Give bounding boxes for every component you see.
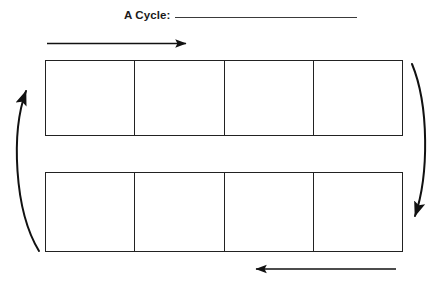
- top-row-cell-4[interactable]: [314, 61, 402, 135]
- top-row-cell-2[interactable]: [135, 61, 224, 135]
- bottom-row-cell-3[interactable]: [225, 173, 314, 251]
- bottom-row-cell-1[interactable]: [46, 173, 135, 251]
- cycle-worksheet: A Cycle:: [0, 0, 438, 285]
- top-row-cell-3[interactable]: [225, 61, 314, 135]
- worksheet-title: A Cycle:: [124, 9, 357, 21]
- left-arrow-up-icon: [17, 91, 39, 251]
- title-blank-line[interactable]: [175, 17, 357, 18]
- bottom-row: [45, 172, 403, 252]
- page-title: A Cycle:: [124, 9, 170, 21]
- right-arrow-down-icon: [412, 64, 425, 216]
- top-row-cell-1[interactable]: [46, 61, 135, 135]
- top-row: [45, 60, 403, 136]
- bottom-row-cell-2[interactable]: [135, 173, 224, 251]
- bottom-row-cell-4[interactable]: [314, 173, 402, 251]
